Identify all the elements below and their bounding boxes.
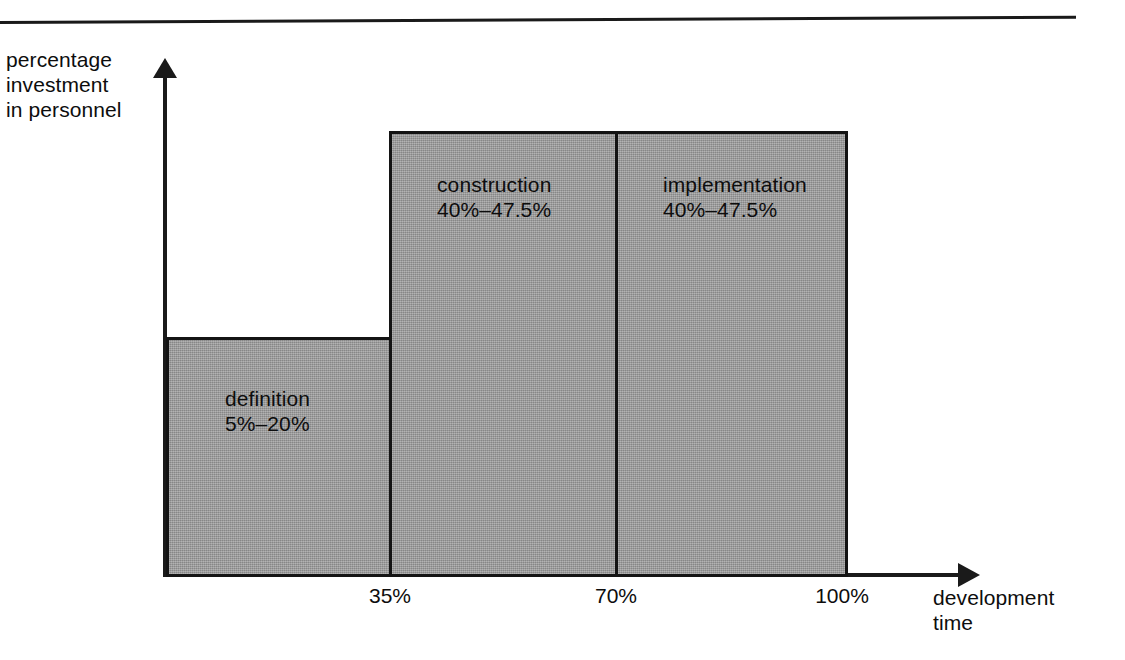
x-axis-title: development time: [933, 585, 1054, 635]
bar-label-definition: definition 5%–20%: [225, 386, 310, 436]
y-axis-title: percentage investment in personnel: [6, 47, 122, 122]
bar-label-implementation: implementation 40%–47.5%: [663, 172, 807, 222]
bar-definition: [166, 337, 392, 577]
x-axis-arrow-icon: [958, 563, 980, 587]
x-tick-label-70: 70%: [571, 583, 661, 608]
y-axis-arrow-icon: [153, 58, 177, 78]
chart-page: percentage investment in personnel devel…: [0, 0, 1125, 660]
bar-chart: percentage investment in personnel devel…: [0, 0, 1125, 660]
x-tick-label-100: 100%: [797, 583, 887, 608]
x-tick-label-35: 35%: [345, 583, 435, 608]
bar-label-construction: construction 40%–47.5%: [437, 172, 551, 222]
